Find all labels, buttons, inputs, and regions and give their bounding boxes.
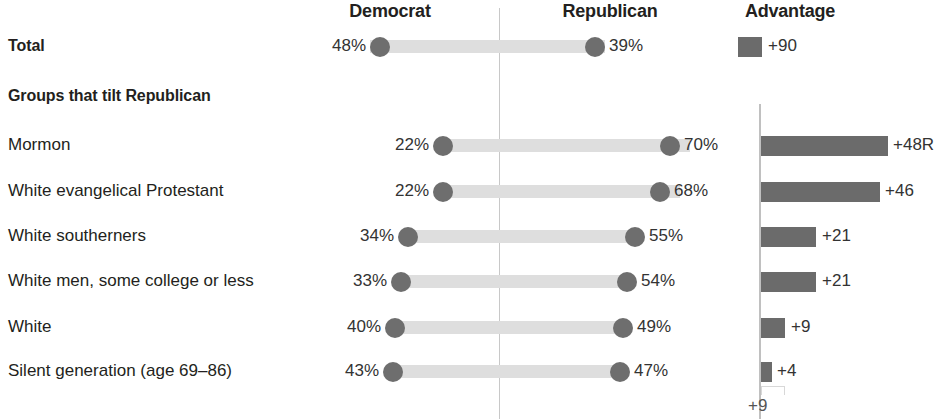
democrat-dot [370,37,390,57]
advantage-value: +90 [768,31,797,61]
advantage-bar [738,37,762,57]
advantage-bar [761,362,772,382]
democrat-dot [433,136,453,156]
dumbbell-track [390,321,623,334]
row-label: White southerners [8,221,146,251]
republican-value: 54% [641,266,675,296]
democrat-dot [391,272,411,292]
partial-advantage-value: +9 [748,396,767,416]
advantage-bar [761,227,816,247]
republican-dot [660,136,680,156]
dumbbell-track [398,275,620,288]
column-header-advantage: Advantage [745,1,835,22]
dumbbell-chart: Democrat Republican Advantage Total 48% … [0,0,940,419]
republican-dot [650,182,670,202]
advantage-value: +21 [822,221,851,251]
row-label: White evangelical Protestant [8,176,223,206]
advantage-value: +4 [777,356,796,386]
advantage-bar [761,318,785,338]
dumbbell-track [405,230,635,243]
republican-dot [625,227,645,247]
row-label: Silent generation (age 69–86) [8,356,232,386]
democrat-value: 22% [333,176,429,206]
row-label: White [8,312,51,342]
republican-dot [610,362,630,382]
democrat-dot [383,362,403,382]
row-label: Total [8,31,45,61]
advantage-value: +21 [822,266,851,296]
republican-dot [585,37,605,57]
section-heading-row: Groups that tilt Republican [0,81,940,111]
dumbbell-track [443,185,680,198]
advantage-value: +48R [893,130,934,160]
table-row: Mormon 22% 70% +48R [0,130,940,160]
table-row: Total 48% 39% +90 [0,31,940,61]
advantage-value: +46 [885,176,914,206]
democrat-value: 43% [283,356,379,386]
column-header-republican: Republican [562,1,657,22]
table-row: White men, some college or less 33% 54% … [0,266,940,296]
section-heading: Groups that tilt Republican [8,81,211,111]
republican-dot [617,272,637,292]
democrat-dot [385,318,405,338]
table-row: Silent generation (age 69–86) 43% 47% +4 [0,356,940,386]
dumbbell-track [443,139,690,152]
republican-value: 47% [634,356,668,386]
advantage-value: +9 [791,312,810,342]
republican-dot [613,318,633,338]
table-row: White evangelical Protestant 22% 68% +46 [0,176,940,206]
republican-value: 55% [649,221,683,251]
table-row: White southerners 34% 55% +21 [0,221,940,251]
republican-value: 49% [637,312,671,342]
democrat-value: 33% [291,266,387,296]
democrat-value: 34% [298,221,394,251]
partial-advantage-bar [761,386,785,395]
democrat-dot [398,227,418,247]
row-label: White men, some college or less [8,266,254,296]
row-label: Mormon [8,130,70,160]
advantage-bar [761,272,816,292]
advantage-bar [761,136,888,156]
table-row: White 40% 49% +9 [0,312,940,342]
democrat-dot [433,182,453,202]
democrat-value: 48% [270,31,366,61]
advantage-bar [761,182,880,202]
democrat-value: 40% [285,312,381,342]
republican-value: 39% [609,31,643,61]
republican-value: 68% [674,176,708,206]
dumbbell-track [370,40,605,53]
democrat-value: 22% [333,130,429,160]
republican-value: 70% [684,130,718,160]
dumbbell-track [390,365,620,378]
column-header-democrat: Democrat [349,1,430,22]
